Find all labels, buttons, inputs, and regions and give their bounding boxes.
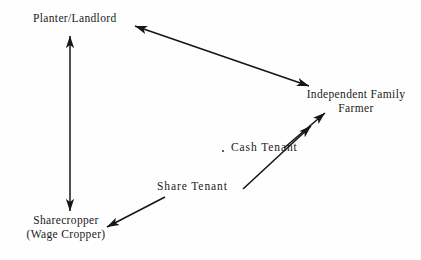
stray-ink-mark (222, 150, 224, 152)
node-share-tenant-line-1: Share Tenant (157, 180, 228, 194)
node-independent-family-farmer-line-2: Farmer (299, 102, 413, 116)
edge-planter-independent-farmer (135, 26, 309, 86)
node-share-tenant: Share Tenant (157, 180, 228, 194)
node-sharecropper-line-2: (Wage Cropper) (8, 228, 124, 242)
node-cash-tenant-line-1: Cash Tenant (231, 141, 298, 155)
node-independent-family-farmer-line-1: Independent Family (299, 88, 413, 102)
node-sharecropper-line-1: Sharecropper (8, 214, 124, 228)
node-sharecropper: Sharecropper (Wage Cropper) (8, 214, 124, 241)
tenure-mobility-diagram: Planter/Landlord Independent Family Farm… (0, 0, 421, 260)
edge-share-tenant-upward (243, 126, 311, 189)
node-planter-landlord: Planter/Landlord (33, 12, 117, 26)
node-planter-landlord-line-1: Planter/Landlord (33, 12, 117, 26)
node-independent-family-farmer: Independent Family Farmer (299, 88, 413, 115)
node-cash-tenant: Cash Tenant (231, 141, 298, 155)
